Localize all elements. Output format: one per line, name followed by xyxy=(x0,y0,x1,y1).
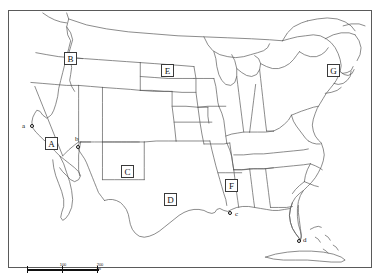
us-reference-map: A B C D E F G a b c d 100 2 xyxy=(0,0,378,273)
scale-label-right: 200 mi xyxy=(97,263,104,271)
region-label-G: G xyxy=(327,64,340,77)
header-strip xyxy=(0,0,378,9)
city-label-d: d xyxy=(303,237,307,244)
scale-tick-mid xyxy=(62,266,63,273)
city-dot-icon xyxy=(76,145,80,149)
city-label-a: a xyxy=(22,123,25,130)
scale-bar: 100 200 mi xyxy=(27,263,99,273)
region-label-E: E xyxy=(161,64,174,77)
region-label-F: F xyxy=(225,179,238,192)
city-dot-icon xyxy=(297,239,301,243)
map-frame: A B C D E F G a b c d 100 2 xyxy=(8,10,372,268)
us-outline-svg xyxy=(9,11,371,267)
city-dot-icon xyxy=(30,124,34,128)
city-dot-icon xyxy=(228,211,232,215)
city-label-c: c xyxy=(235,211,238,218)
scale-tick-left xyxy=(27,266,28,273)
region-label-C: C xyxy=(121,165,134,178)
scale-label-mid: 100 xyxy=(60,263,67,267)
city-label-b: b xyxy=(75,136,79,143)
region-label-D: D xyxy=(164,193,177,206)
region-label-B: B xyxy=(64,52,77,65)
region-label-A: A xyxy=(45,137,58,150)
